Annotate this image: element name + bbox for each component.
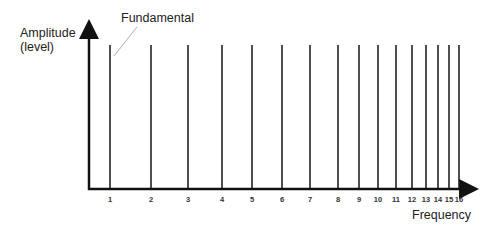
x-tick-label: 3: [186, 195, 190, 204]
x-tick-label: 8: [336, 195, 340, 204]
x-tick-label: 12: [408, 195, 416, 204]
x-tick-label: 2: [149, 195, 153, 204]
x-tick-label: 14: [434, 195, 443, 204]
x-tick-label: 6: [280, 195, 284, 204]
annotation-fundamental: Fundamental: [121, 11, 194, 25]
fundamental-leader-line: [114, 27, 137, 56]
x-tick-label: 1: [108, 195, 112, 204]
harmonic-spectrum-diagram: 12345678910111213141516 Fundamental Ampl…: [0, 0, 499, 229]
x-tick-label: 10: [374, 195, 382, 204]
x-tick-label: 9: [357, 195, 361, 204]
x-tick-label: 4: [220, 195, 225, 204]
x-tick-label: 16: [455, 195, 463, 204]
x-axis-label: Frequency: [412, 208, 472, 222]
x-tick-label: 15: [445, 195, 453, 204]
x-tick-label: 13: [422, 195, 430, 204]
x-tick-label: 7: [308, 195, 312, 204]
x-tick-label: 11: [392, 195, 400, 204]
y-axis-label-line2: (level): [20, 40, 54, 54]
x-tick-label: 5: [250, 195, 254, 204]
y-axis-label-line1: Amplitude: [20, 26, 76, 40]
